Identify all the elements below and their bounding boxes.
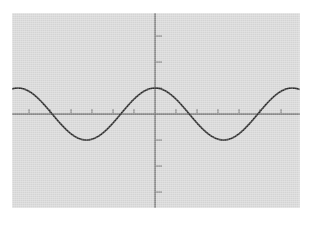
calculator-screen: [0, 0, 310, 225]
graph-plot-area[interactable]: [12, 13, 300, 208]
graph-canvas: [12, 13, 300, 208]
